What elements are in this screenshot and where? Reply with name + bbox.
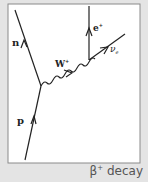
- diagram-caption: β+ decay: [90, 164, 143, 178]
- proton-label: p: [17, 115, 24, 126]
- feynman-diagram: p n W+ e+ νe: [0, 0, 148, 182]
- caption-text: decay: [107, 164, 143, 178]
- diagram-panel: [8, 4, 140, 163]
- caption-superscript: +: [97, 164, 103, 172]
- neutron-label: n: [12, 37, 20, 48]
